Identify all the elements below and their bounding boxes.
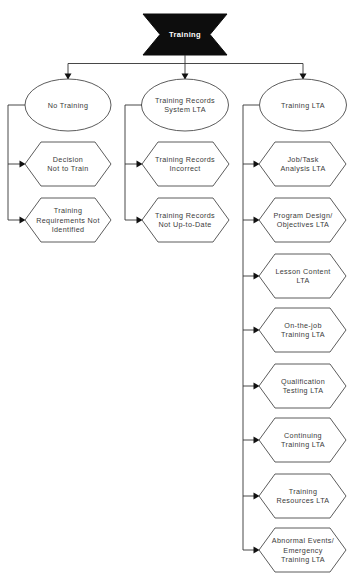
label-line: Training (54, 206, 83, 215)
label-line: Not Up-to-Date (158, 220, 211, 229)
arrow-right-icon (137, 161, 143, 168)
label-line: Training LTA (281, 101, 325, 110)
child-label: Training RecordsNot Up-to-Date (155, 211, 215, 229)
arrow-right-icon (137, 217, 143, 224)
label-line: Program Design/ (273, 211, 332, 220)
label-line: Lesson Content (275, 267, 330, 276)
child-label: Program Design/Objectives LTA (273, 211, 332, 229)
label-line: Requirements Not (36, 216, 100, 225)
label-line: Training LTA (281, 440, 325, 449)
label-line: Training (289, 487, 318, 496)
arrow-right-icon (254, 383, 260, 390)
diagram-svg: TrainingNo TrainingDecisionNot to TrainT… (0, 0, 357, 578)
label-line: Qualification (281, 377, 325, 386)
label-line: Testing LTA (283, 386, 324, 395)
label-line: Training Records (155, 96, 215, 105)
child-label: QualificationTesting LTA (281, 377, 325, 395)
fault-tree-diagram: TrainingNo TrainingDecisionNot to TrainT… (0, 0, 357, 578)
arrow-right-icon (254, 273, 260, 280)
arrow-right-icon (254, 217, 260, 224)
connector-spine (243, 105, 259, 550)
label-line: On-the-job (284, 321, 321, 330)
branch-label: Training LTA (281, 101, 325, 110)
label-line: Resources LTA (276, 496, 329, 505)
child-label: On-the-jobTraining LTA (281, 321, 325, 339)
arrow-right-icon (254, 327, 260, 334)
label-line: Not to Train (47, 164, 88, 173)
label-line: Training Records (155, 155, 215, 164)
label-line: LTA (296, 276, 309, 285)
label-line: No Training (48, 101, 89, 110)
label-line: Training (169, 30, 201, 39)
arrow-right-icon (254, 161, 260, 168)
child-label: ContinuingTraining LTA (281, 431, 325, 449)
root-label: Training (169, 30, 201, 39)
label-line: Incorrect (169, 164, 200, 173)
arrow-right-icon (20, 161, 26, 168)
label-line: Training LTA (281, 555, 325, 564)
label-line: Abnormal Events/ (272, 536, 334, 545)
label-line: Continuing (284, 431, 322, 440)
label-line: Analysis LTA (280, 164, 325, 173)
label-line: Objectives LTA (277, 220, 330, 229)
arrow-right-icon (20, 217, 26, 224)
child-label: DecisionNot to Train (47, 155, 88, 173)
arrow-right-icon (254, 493, 260, 500)
label-line: Identified (52, 225, 85, 234)
branch-label: No Training (48, 101, 89, 110)
label-line: Training Records (155, 211, 215, 220)
arrow-right-icon (254, 547, 260, 554)
label-line: System LTA (164, 105, 206, 114)
label-line: Emergency (283, 546, 323, 555)
label-line: Job/Task (287, 155, 318, 164)
arrow-right-icon (254, 437, 260, 444)
label-line: Training LTA (281, 330, 325, 339)
label-line: Decision (53, 155, 83, 164)
